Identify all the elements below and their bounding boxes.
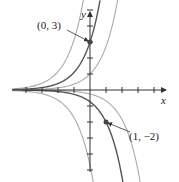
point-0-3: (0, 3) bbox=[37, 19, 93, 45]
solution-curve bbox=[12, 0, 118, 90]
pointer-arrow bbox=[108, 123, 130, 132]
solution-curve bbox=[12, 0, 84, 89]
x-axis-label: x bbox=[160, 94, 166, 106]
solution-curves-diagram: x y (0, 3) (1, −2) bbox=[0, 0, 179, 182]
point-marker bbox=[88, 40, 93, 45]
point-1-neg2: (1, −2) bbox=[104, 120, 160, 144]
point-label: (0, 3) bbox=[37, 19, 61, 32]
y-axis-label: y bbox=[80, 8, 86, 20]
solution-curve bbox=[12, 90, 124, 182]
solution-curve bbox=[12, 90, 141, 182]
point-label: (1, −2) bbox=[129, 130, 159, 143]
point-marker bbox=[104, 120, 109, 125]
pointer-arrow bbox=[67, 30, 88, 41]
solution-curve bbox=[12, 91, 94, 182]
